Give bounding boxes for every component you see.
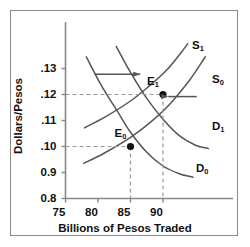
y-tick-label-5: 0.8 xyxy=(31,193,57,205)
curve-label-s0: S0 xyxy=(212,74,224,86)
y-tick-label-0: .13 xyxy=(31,63,57,75)
curve-label-s1: S1 xyxy=(192,40,204,52)
y-tick-label-4: 0.9 xyxy=(31,167,57,179)
y-tick-label-1: .12 xyxy=(31,89,57,101)
equilibrium-label-e0: E0 xyxy=(115,128,127,140)
curve-label-d0-subscript: 0 xyxy=(204,167,208,176)
equilibrium-label-e0-subscript: 0 xyxy=(122,132,126,141)
chart-figure: Billions of Pesos Traded Dollars/Pesos .… xyxy=(0,0,250,247)
curve-s0 xyxy=(84,57,206,164)
x-tick-label-3: 90 xyxy=(150,207,163,219)
curve-label-s0-subscript: 0 xyxy=(220,78,224,87)
curve-label-d1: D1 xyxy=(212,121,224,133)
equilibrium-label-e1-subscript: 1 xyxy=(155,80,159,89)
x-tick-label-1: 80 xyxy=(85,207,98,219)
equilibrium-marker-e1 xyxy=(159,91,166,98)
x-tick-label-0: 75 xyxy=(53,207,66,219)
equilibrium-label-e1: E1 xyxy=(147,76,159,88)
y-tick-label-2: .11 xyxy=(31,115,57,127)
curve-label-d1-subscript: 1 xyxy=(220,125,224,134)
curve-s1 xyxy=(84,44,187,128)
y-axis-title: Dollars/Pesos xyxy=(12,61,24,171)
curve-label-s1-subscript: 1 xyxy=(200,44,204,53)
x-tick-label-2: 85 xyxy=(118,207,131,219)
curve-label-d0: D0 xyxy=(196,163,208,175)
x-axis-title: Billions of Pesos Traded xyxy=(0,222,250,234)
y-tick-label-3: .10 xyxy=(31,141,57,153)
equilibrium-marker-e0 xyxy=(127,143,134,150)
